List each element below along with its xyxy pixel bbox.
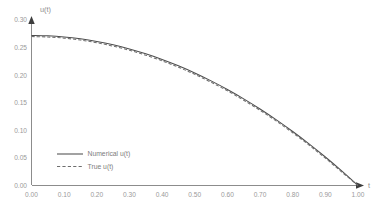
x-tick-label: 0.40 — [156, 191, 169, 198]
x-tick-label: 0.50 — [188, 191, 201, 198]
y-axis-title: u(t) — [40, 5, 51, 14]
legend-label: True u(t) — [88, 163, 114, 171]
y-axis-arrow-icon — [28, 16, 34, 24]
x-tick-label: 0.20 — [90, 191, 103, 198]
x-tick-label: 0.00 — [25, 191, 38, 198]
y-tick-label: 0.00 — [14, 182, 27, 189]
line-chart: u(t) t 0.000.050.100.150.200.250.30 0.00… — [0, 0, 382, 206]
x-tick-label: 1.00 — [352, 191, 365, 198]
legend-label: Numerical u(t) — [88, 150, 131, 158]
y-tick-label: 0.25 — [14, 44, 27, 51]
series-line-2 — [32, 37, 359, 186]
y-tick-label: 0.15 — [14, 99, 27, 106]
x-tick-label: 0.30 — [123, 191, 136, 198]
chart-container: u(t) t 0.000.050.100.150.200.250.30 0.00… — [0, 0, 382, 206]
data-series-group — [32, 35, 359, 185]
x-tick-label: 0.70 — [254, 191, 267, 198]
y-axis-tick-labels: 0.000.050.100.150.200.250.30 — [14, 16, 27, 189]
x-axis-title: t — [368, 181, 370, 190]
y-tick-label: 0.10 — [14, 127, 27, 134]
x-tick-label: 0.80 — [286, 191, 299, 198]
chart-legend: Numerical u(t)True u(t) — [57, 150, 130, 171]
y-tick-label: 0.30 — [14, 16, 27, 23]
x-axis-tick-labels: 0.000.100.200.300.400.500.600.700.800.90… — [25, 191, 365, 198]
x-tick-label: 0.90 — [319, 191, 332, 198]
y-tick-label: 0.05 — [14, 154, 27, 161]
series-line-1 — [32, 35, 359, 185]
x-tick-label: 0.10 — [58, 191, 71, 198]
y-tick-label: 0.20 — [14, 72, 27, 79]
x-tick-label: 0.60 — [221, 191, 234, 198]
